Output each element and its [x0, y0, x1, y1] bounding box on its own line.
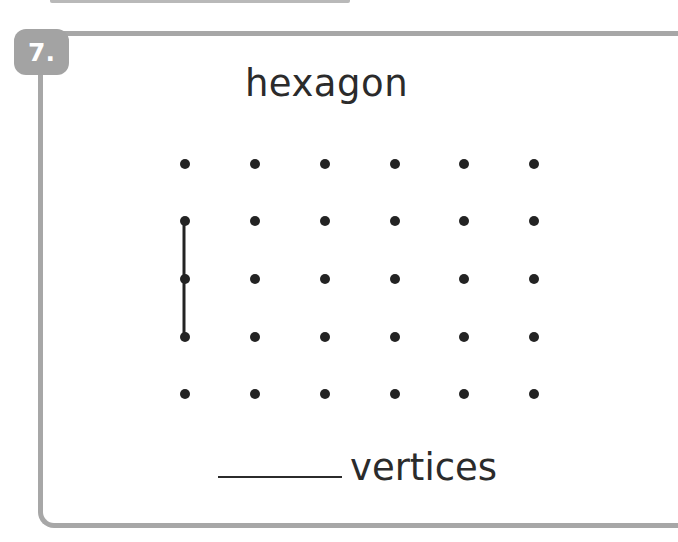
answer-row: vertices	[218, 436, 497, 486]
grid-dot[interactable]	[250, 159, 260, 169]
grid-dot[interactable]	[180, 274, 190, 284]
grid-dot[interactable]	[320, 332, 330, 342]
grid-dot[interactable]	[459, 274, 469, 284]
grid-dot[interactable]	[250, 274, 260, 284]
grid-dot[interactable]	[390, 159, 400, 169]
grid-dot[interactable]	[180, 332, 190, 342]
grid-dot[interactable]	[459, 389, 469, 399]
grid-dot[interactable]	[250, 332, 260, 342]
grid-dot[interactable]	[459, 159, 469, 169]
grid-dot[interactable]	[390, 216, 400, 226]
answer-blank[interactable]	[218, 476, 342, 478]
grid-dot[interactable]	[320, 159, 330, 169]
grid-dot[interactable]	[180, 159, 190, 169]
grid-dot[interactable]	[320, 274, 330, 284]
grid-dot[interactable]	[529, 274, 539, 284]
grid-dot[interactable]	[529, 159, 539, 169]
grid-dot[interactable]	[180, 216, 190, 226]
answer-label: vertices	[350, 449, 497, 486]
grid-dot[interactable]	[250, 389, 260, 399]
grid-dot[interactable]	[459, 332, 469, 342]
grid-dot[interactable]	[529, 332, 539, 342]
grid-dot[interactable]	[390, 274, 400, 284]
grid-dot[interactable]	[250, 216, 260, 226]
grid-dot[interactable]	[529, 216, 539, 226]
grid-dot[interactable]	[180, 389, 190, 399]
grid-dot[interactable]	[320, 389, 330, 399]
grid-dot[interactable]	[390, 332, 400, 342]
grid-dot[interactable]	[529, 389, 539, 399]
grid-dot[interactable]	[320, 216, 330, 226]
dot-grid-points[interactable]	[180, 159, 539, 399]
grid-dot[interactable]	[390, 389, 400, 399]
grid-dot[interactable]	[459, 216, 469, 226]
